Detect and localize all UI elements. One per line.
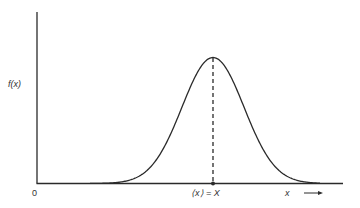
gaussian-curve: [90, 58, 320, 184]
x-axis-label: x: [285, 188, 290, 198]
origin-label: 0: [32, 188, 37, 198]
mean-label: ⟨x⟩ = X: [191, 188, 220, 198]
mean-point: [211, 182, 215, 186]
chart-canvas: [0, 0, 360, 208]
y-axis-label: f(x): [8, 79, 21, 89]
x-arrow-head-icon: [318, 191, 323, 195]
